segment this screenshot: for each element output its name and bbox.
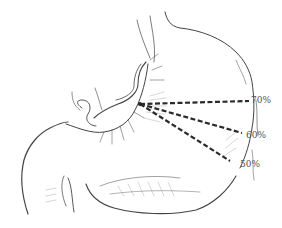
label-50-percent: 50% bbox=[240, 160, 260, 169]
label-70-percent: 70% bbox=[251, 96, 271, 105]
resection-line-60 bbox=[140, 104, 242, 133]
stomach-drawing bbox=[0, 0, 282, 228]
resection-lines bbox=[140, 101, 249, 161]
pylorus bbox=[68, 178, 74, 212]
greater-curvature bbox=[22, 122, 68, 214]
resection-line-70 bbox=[140, 101, 249, 104]
label-60-percent: 60% bbox=[246, 131, 266, 140]
stomach-illustration: 70% 60% 50% bbox=[0, 0, 282, 228]
resection-line-50 bbox=[140, 104, 230, 161]
resection-origin bbox=[138, 102, 142, 106]
fundus-outline bbox=[165, 12, 254, 168]
